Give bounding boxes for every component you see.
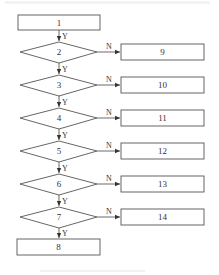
svg-text:5: 5 <box>57 146 62 156</box>
no-label: N <box>106 108 112 117</box>
caption-remnant <box>40 270 145 272</box>
yes-label: Y <box>62 131 68 140</box>
svg-text:1: 1 <box>57 18 62 28</box>
svg-text:8: 8 <box>56 242 61 252</box>
svg-text:13: 13 <box>158 179 168 189</box>
decision-diamond-3: 3 <box>20 75 97 96</box>
svg-text:4: 4 <box>57 113 62 123</box>
no-label: N <box>106 174 112 183</box>
decision-diamond-5: 5 <box>20 141 97 162</box>
outcome-box-12: 12 <box>121 143 204 159</box>
no-label: N <box>106 207 112 216</box>
outcome-box-13: 13 <box>121 176 204 192</box>
outcome-box-9: 9 <box>121 44 204 60</box>
no-label: N <box>106 42 112 51</box>
no-label: N <box>106 141 112 150</box>
decision-diamond-4: 4 <box>20 108 97 129</box>
yes-label: Y <box>62 197 68 206</box>
svg-text:14: 14 <box>158 212 168 222</box>
svg-text:6: 6 <box>57 179 62 189</box>
decision-diamond-7: 7 <box>20 207 97 228</box>
decision-diamond-6: 6 <box>20 174 97 195</box>
yes-label: Y <box>62 98 68 107</box>
yes-label: Y <box>62 65 68 74</box>
decision-diamond-2: 2 <box>20 42 97 63</box>
svg-text:9: 9 <box>160 47 165 57</box>
yes-label: Y <box>62 164 68 173</box>
header-remnant <box>5 1 210 4</box>
outcome-box-10: 10 <box>121 77 204 93</box>
outcome-box-11: 11 <box>121 110 204 126</box>
flowchart: 1 Y 2 N 9 Y 3 N 10 Y 4 N 11 Y 5 N <box>0 0 219 275</box>
yes-label: Y <box>62 32 68 41</box>
process-box-8: 8 <box>17 239 100 255</box>
svg-text:3: 3 <box>57 80 62 90</box>
no-label: N <box>106 75 112 84</box>
yes-label: Y <box>62 229 68 238</box>
process-box-1: 1 <box>18 15 100 30</box>
svg-text:11: 11 <box>158 113 167 123</box>
svg-text:2: 2 <box>57 47 62 57</box>
svg-text:10: 10 <box>158 80 168 90</box>
outcome-box-14: 14 <box>121 209 204 225</box>
svg-text:7: 7 <box>57 212 62 222</box>
svg-text:12: 12 <box>158 146 167 156</box>
